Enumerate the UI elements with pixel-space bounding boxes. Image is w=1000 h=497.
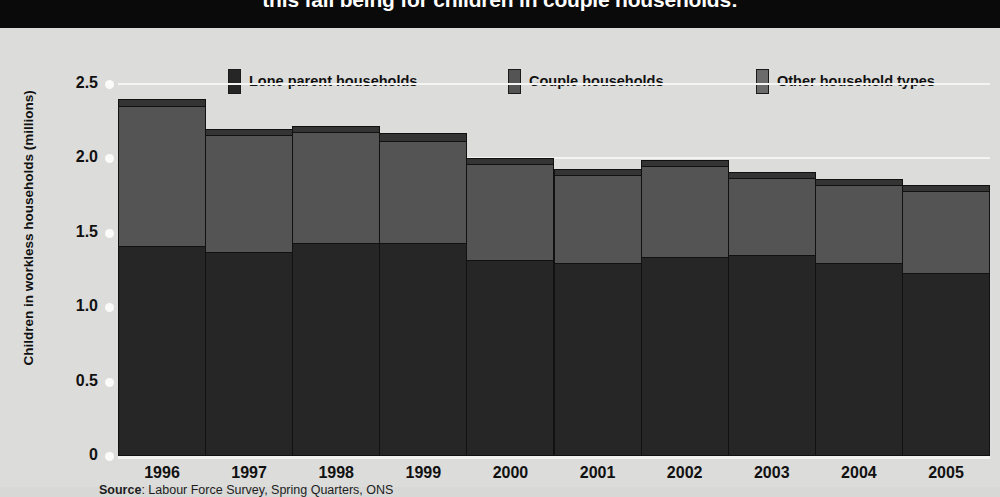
source-prefix: Source <box>99 483 141 497</box>
gridline <box>118 83 990 85</box>
bar-segment-couple <box>293 133 379 245</box>
bar-segment-couple <box>903 192 989 274</box>
bar-2002[interactable] <box>641 160 729 456</box>
bar-segment-lone-parent <box>206 253 292 455</box>
source-note: Source: Labour Force Survey, Spring Quar… <box>99 483 393 497</box>
page-title: this fall being for children in couple h… <box>262 0 737 12</box>
bar-segment-lone-parent <box>903 274 989 455</box>
y-tick-marker <box>105 80 114 89</box>
bar-1996[interactable] <box>118 99 206 456</box>
bar-2000[interactable] <box>466 158 554 456</box>
x-tick-label-2002: 2002 <box>641 464 729 482</box>
bar-segment-couple <box>119 107 205 247</box>
bar-segment-lone-parent <box>119 247 205 455</box>
y-tick-label: 0 <box>36 446 98 464</box>
x-tick-label-2004: 2004 <box>815 464 903 482</box>
bar-segment-other <box>380 134 466 141</box>
bar-2005[interactable] <box>902 185 990 456</box>
source-text: : Labour Force Survey, Spring Quarters, … <box>141 483 393 497</box>
bar-segment-lone-parent <box>380 244 466 455</box>
bar-segment-lone-parent <box>467 261 553 455</box>
bar-segment-couple <box>816 186 902 263</box>
bar-segment-lone-parent <box>642 258 728 455</box>
y-tick-marker <box>105 154 114 163</box>
y-tick-marker <box>105 303 114 312</box>
chart-panel: Lone parent households Couple households… <box>0 28 1000 487</box>
plot-area: 00.51.01.52.02.5 <box>118 84 990 456</box>
bar-segment-couple <box>380 142 466 245</box>
bar-segment-couple <box>467 165 553 260</box>
bar-1998[interactable] <box>292 126 380 456</box>
bar-segment-other <box>119 100 205 107</box>
bar-segment-lone-parent <box>555 264 641 455</box>
title-banner: this fall being for children in couple h… <box>0 0 1000 28</box>
y-tick-label: 1.0 <box>36 297 98 315</box>
y-tick-label: 2.0 <box>36 148 98 166</box>
y-tick-marker <box>105 378 114 387</box>
bar-segment-couple <box>555 176 641 264</box>
bar-1999[interactable] <box>379 133 467 456</box>
x-tick-label-1998: 1998 <box>292 464 380 482</box>
x-tick-label-1997: 1997 <box>205 464 293 482</box>
x-tick-label-1999: 1999 <box>379 464 467 482</box>
x-tick-label-1996: 1996 <box>118 464 206 482</box>
bar-segment-lone-parent <box>816 264 902 455</box>
y-tick-marker <box>105 229 114 238</box>
y-tick-marker <box>105 452 114 461</box>
x-tick-label-2003: 2003 <box>728 464 816 482</box>
bar-segment-couple <box>206 136 292 254</box>
bar-segment-couple <box>729 179 815 256</box>
bar-2003[interactable] <box>728 172 816 456</box>
y-tick-label: 1.5 <box>36 223 98 241</box>
y-tick-label: 0.5 <box>36 372 98 390</box>
y-tick-label: 2.5 <box>36 74 98 92</box>
bar-segment-couple <box>642 167 728 258</box>
x-axis-line <box>118 456 990 459</box>
bar-2004[interactable] <box>815 179 903 456</box>
x-tick-label-2001: 2001 <box>554 464 642 482</box>
x-tick-label-2000: 2000 <box>466 464 554 482</box>
x-tick-label-2005: 2005 <box>902 464 990 482</box>
bar-1997[interactable] <box>205 129 293 456</box>
bar-segment-lone-parent <box>729 256 815 455</box>
bar-2001[interactable] <box>554 169 642 456</box>
bar-segment-lone-parent <box>293 244 379 455</box>
